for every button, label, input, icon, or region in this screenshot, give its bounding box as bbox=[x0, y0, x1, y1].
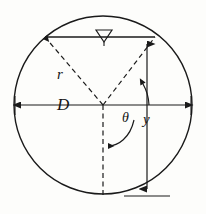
pipe-cross-section-figure: r D θ y bbox=[0, 0, 206, 214]
depth-label: y bbox=[143, 112, 150, 127]
angle-arc-upper bbox=[143, 84, 149, 105]
diameter-label: D bbox=[57, 96, 69, 113]
radius-line-left bbox=[45, 37, 103, 105]
angle-arc-lower bbox=[108, 120, 134, 146]
radius-label: r bbox=[57, 67, 63, 82]
angle-label: θ bbox=[122, 111, 129, 125]
water-table-triangle-icon bbox=[96, 30, 112, 42]
diagram-canvas bbox=[0, 0, 206, 214]
